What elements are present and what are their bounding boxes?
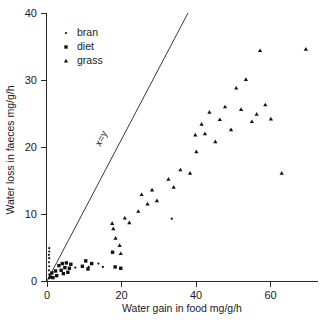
y-axis-title: Water loss in faeces mg/g/h [4, 85, 16, 214]
data-point-square [119, 267, 122, 270]
data-point-dot [48, 250, 50, 252]
data-point-dot [48, 269, 50, 271]
data-point-square [63, 266, 66, 269]
data-point-square [113, 265, 116, 268]
data-point-dot [171, 218, 173, 220]
data-point-dot [65, 32, 67, 34]
x-tick-label: 60 [264, 289, 276, 301]
x-tick-label: 0 [44, 289, 50, 301]
y-tick-label: 30 [25, 74, 37, 86]
data-point-square [61, 262, 64, 265]
data-point-square [111, 250, 114, 253]
data-point-dot [48, 257, 50, 259]
chart-background [0, 0, 326, 329]
scatter-chart-figure: 010203040 0204060 x=y Water gain in food… [0, 0, 326, 329]
data-point-dot [74, 267, 76, 269]
data-point-dot [102, 266, 104, 268]
data-point-square [84, 259, 87, 262]
data-point-square [62, 272, 65, 275]
data-point-square [50, 271, 53, 274]
chart-canvas: 010203040 0204060 x=y Water gain in food… [0, 0, 326, 329]
data-point-dot [48, 254, 50, 256]
legend-label-bran: bran [77, 26, 98, 38]
data-point-dot [97, 262, 99, 264]
data-point-square [55, 274, 58, 277]
x-tick-label: 40 [190, 289, 202, 301]
y-tick-label: 0 [31, 275, 37, 287]
data-point-dot [48, 261, 50, 263]
data-point-square [64, 45, 67, 48]
data-point-square [81, 265, 84, 268]
data-point-dot [48, 273, 50, 275]
data-point-square [68, 267, 71, 270]
data-point-square [54, 269, 57, 272]
data-point-square [51, 276, 54, 279]
data-point-dot [48, 247, 50, 249]
y-tick-label: 10 [25, 208, 37, 220]
x-axis-title: Water gain in food mg/g/h [122, 302, 242, 314]
data-point-dot [48, 265, 50, 267]
x-tick-label: 20 [115, 289, 127, 301]
data-point-square [59, 269, 62, 272]
data-point-square [57, 264, 60, 267]
data-point-square [90, 262, 93, 265]
data-point-square [86, 267, 89, 270]
data-point-square [69, 263, 72, 266]
data-point-square [65, 261, 68, 264]
y-tick-label: 20 [25, 141, 37, 153]
legend-label-diet: diet [77, 40, 94, 52]
data-point-square [66, 271, 69, 274]
y-tick-label: 40 [25, 7, 37, 19]
legend-label-grass: grass [77, 54, 103, 66]
